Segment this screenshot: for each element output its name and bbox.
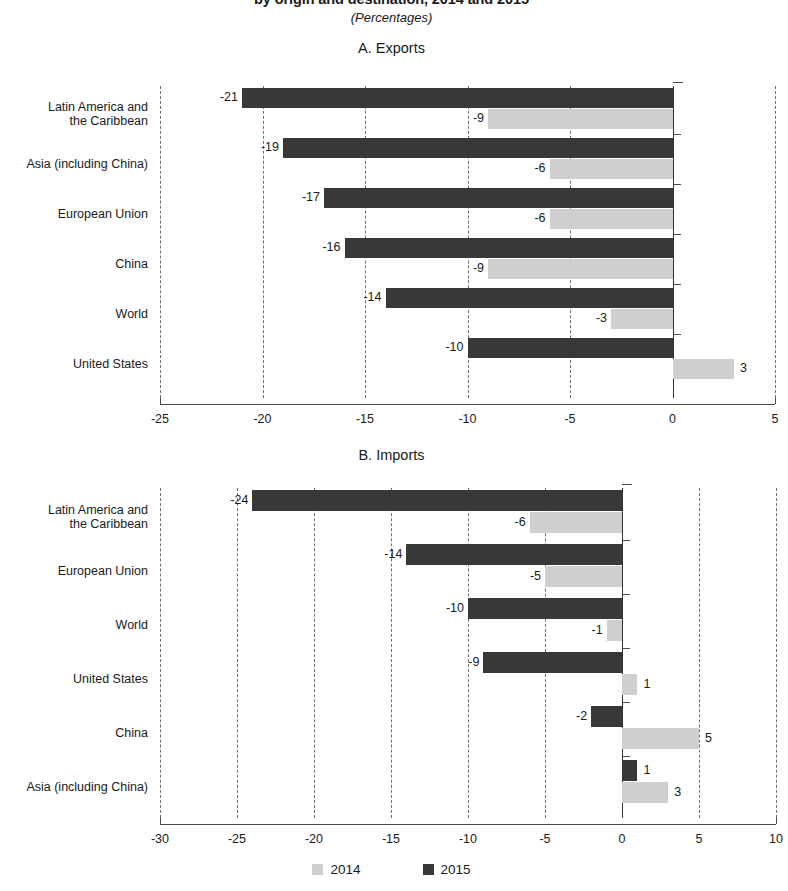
x-tick-label: -5 [540,412,600,426]
bar-value-label: -9 [458,112,484,125]
category-label: European Union [0,564,148,578]
category-label-line: Latin America and [0,100,148,114]
bar-2015-united-states [483,652,622,673]
bar-value-label: -9 [458,262,484,275]
bar-value-label: -1 [577,624,603,637]
bar-2014-latin-america-and-the-caribbean [488,109,673,129]
bar-2015-china [345,238,673,258]
category-label-line: Asia (including China) [0,157,148,171]
bar-2015-world [386,288,673,308]
bar-value-label: 1 [643,678,650,691]
bar-value-label: -21 [212,91,238,104]
axis-row-tick [673,284,681,285]
category-label-line: World [0,618,148,632]
category-label-line: World [0,307,148,321]
bar-2014-china [622,728,699,749]
legend-label-2015: 2015 [441,862,471,877]
axis-row-tick [673,184,681,185]
category-label: China [0,257,148,271]
category-label-line: the Caribbean [0,114,148,128]
axis-row-tick [673,334,681,335]
bar-value-label: -24 [222,494,248,507]
x-tick-label: -10 [438,412,498,426]
bar-value-label: -14 [356,291,382,304]
gridline-5 [699,488,700,818]
axis-row-tick [622,756,630,757]
legend-swatch-2014-icon [312,864,323,875]
bar-2015-china [591,706,622,727]
bar-2014-latin-america-and-the-caribbean [530,512,622,533]
x-tick-label: -20 [284,832,344,846]
gridline--20 [263,86,264,398]
x-tick-label: 0 [592,832,652,846]
category-label: World [0,307,148,321]
bar-2015-european-union [324,188,673,208]
category-label-line: United States [0,357,148,371]
x-tick-label: 10 [746,832,788,846]
axis-row-tick [622,648,630,649]
x-axis-line [160,824,776,825]
category-label: United States [0,672,148,686]
bar-value-label: -16 [315,241,341,254]
axis-row-tick [673,234,681,235]
x-tick-label: 0 [643,412,703,426]
gridline--15 [391,488,392,818]
category-label-line: European Union [0,207,148,221]
bar-2015-asia-including-china [283,138,673,158]
axis-top-cap [622,484,632,485]
category-label-line: the Caribbean [0,517,148,531]
bar-value-label: -17 [294,191,320,204]
bar-value-label: 5 [705,732,712,745]
bar-value-label: 3 [674,786,681,799]
category-label: Latin America andthe Caribbean [0,100,148,128]
chart-legend: 2014 2015 [0,862,783,877]
bar-2015-latin-america-and-the-caribbean [252,490,622,511]
x-tick-label: -25 [130,412,190,426]
axis-end-cap-left [160,398,161,404]
bar-2015-latin-america-and-the-caribbean [242,88,673,108]
bar-value-label: -3 [581,312,607,325]
legend-item-2015: 2015 [423,862,471,877]
category-label: Asia (including China) [0,780,148,794]
legend-label-2014: 2014 [330,862,360,877]
axis-row-tick [622,702,630,703]
x-tick-label: -5 [515,832,575,846]
bar-value-label: -14 [376,548,402,561]
legend-item-2014: 2014 [312,862,360,877]
zero-axis-line [673,86,674,398]
category-label: Latin America andthe Caribbean [0,503,148,531]
axis-end-cap-right [775,398,776,404]
bar-2015-united-states [468,338,673,358]
category-label-line: Asia (including China) [0,780,148,794]
bar-value-label: 3 [740,362,747,375]
axis-row-tick [622,594,630,595]
axis-row-tick [673,134,681,135]
bar-value-label: -6 [500,516,526,529]
bar-2014-world [607,620,622,641]
bar-2014-china [488,259,673,279]
x-tick-label: -25 [207,832,267,846]
bar-2015-world [468,598,622,619]
gridline-5 [775,86,776,398]
gridline--25 [237,488,238,818]
category-label: European Union [0,207,148,221]
bar-value-label: -10 [438,341,464,354]
bar-value-label: -10 [438,602,464,615]
gridline--10 [468,488,469,818]
chart-panel-exports: -25-20-15-10-505Latin America andthe Car… [0,82,783,412]
bar-2014-european-union [550,209,673,229]
x-axis-line [160,404,775,405]
gridline--20 [314,488,315,818]
bar-2014-asia-including-china [622,782,668,803]
bar-2015-european-union [406,544,622,565]
bar-value-label: -2 [561,710,587,723]
bar-2015-asia-including-china [622,760,637,781]
axis-row-tick [622,540,630,541]
category-label: United States [0,357,148,371]
x-tick-label: -15 [361,832,421,846]
bar-value-label: -6 [520,212,546,225]
figure-title: by origin and destination, 2014 and 2015 [0,0,783,7]
gridline--30 [160,488,161,818]
category-label-line: European Union [0,564,148,578]
bar-value-label: -9 [453,656,479,669]
